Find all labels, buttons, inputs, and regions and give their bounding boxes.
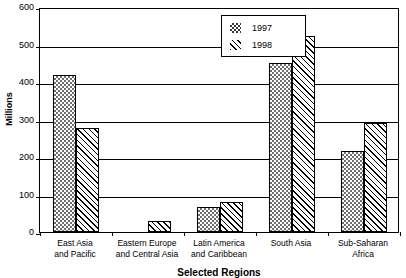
bar-1997-3 [269,63,292,232]
x-axis-label-line: Latin America [183,238,255,249]
bar-1998-1 [148,221,171,232]
legend-label-1997: 1997 [252,24,272,33]
x-axis-label-line: Sub-Saharan [327,238,399,249]
x-axis-title: Selected Regions [39,267,399,278]
y-axis-tick-label: 400 [8,78,34,87]
legend-swatch-1998-icon [230,40,241,50]
x-axis-tick [184,232,185,236]
x-axis-label-2: Latin Americaand Caribbean [183,238,255,260]
x-axis-label-line: and Caribbean [183,249,255,260]
y-axis-tick-label: 600 [8,3,34,12]
plot-area [39,8,399,233]
x-axis-label-line: and Pacific [39,249,111,260]
bar-1998-3 [292,36,315,232]
x-axis-tick [328,232,329,236]
y-axis-tick-labels: 0100200300400500600 [8,0,34,275]
y-axis-tick-label: 500 [8,41,34,50]
x-axis-category-labels: East Asiaand PacificEastern Europeand Ce… [39,238,399,266]
bar-1998-2 [220,202,243,232]
x-axis-tick [112,232,113,236]
bar-1997-4 [341,151,364,232]
y-axis-tick-label: 300 [8,116,34,125]
x-axis-tick [40,232,41,236]
x-axis-label-1: Eastern Europeand Central Asia [111,238,183,260]
legend-item-1997: 1997 [230,21,272,35]
x-axis-label-line: Eastern Europe [111,238,183,249]
y-axis-tick-label: 200 [8,153,34,162]
x-axis-tick [400,232,401,236]
x-axis-label-line: Africa [327,249,399,260]
bar-1998-4 [364,123,387,233]
bar-1997-2 [197,207,220,232]
x-axis-tick [256,232,257,236]
x-axis-label-3: South Asia [255,238,327,249]
x-axis-label-4: Sub-SaharanAfrica [327,238,399,260]
chart-legend: 1997 1998 [221,15,306,57]
x-axis-label-line: and Central Asia [111,249,183,260]
bar-1997-0 [53,75,76,232]
y-axis-tick-label: 100 [8,191,34,200]
bar-1998-0 [76,128,99,232]
y-axis-tick-label: 0 [8,228,34,237]
legend-label-1998: 1998 [252,41,272,50]
legend-swatch-1997-icon [230,23,241,33]
x-axis-label-line: East Asia [39,238,111,249]
bars-layer [40,9,398,232]
legend-item-1998: 1998 [230,38,272,52]
x-axis-label-0: East Asiaand Pacific [39,238,111,260]
x-axis-label-line: South Asia [255,238,327,249]
